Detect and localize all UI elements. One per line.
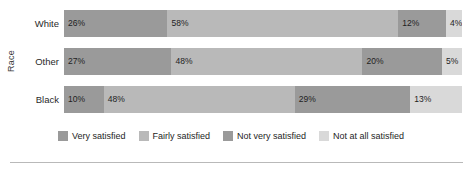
bar-segment[interactable]: 20% — [362, 48, 442, 75]
y-axis-title: Race — [0, 0, 22, 122]
bar-segment-value: 10% — [64, 95, 85, 104]
bar-segment[interactable]: 48% — [171, 48, 362, 75]
bar-segment[interactable]: 13% — [410, 86, 462, 113]
legend-swatch-icon — [319, 131, 329, 141]
bar-segment[interactable]: 29% — [295, 86, 410, 113]
bar-segment-value: 26% — [64, 19, 85, 28]
bottom-divider — [10, 162, 463, 163]
bar-track: 26%58%12%4% — [64, 10, 462, 37]
bar-row: Other27%48%20%5% — [22, 48, 462, 75]
legend-item[interactable]: Fairly satisfied — [139, 131, 211, 141]
bar-segment-value: 20% — [362, 57, 383, 66]
bar-segment[interactable]: 27% — [64, 48, 171, 75]
chart-legend: Very satisfiedFairly satisfiedNot very s… — [58, 128, 466, 144]
bar-segment-value: 48% — [171, 57, 192, 66]
legend-swatch-icon — [139, 131, 149, 141]
y-axis-title-label: Race — [6, 50, 16, 72]
legend-item[interactable]: Not very satisfied — [223, 131, 306, 141]
bar-segment-value: 12% — [398, 19, 419, 28]
bar-segment[interactable]: 4% — [446, 10, 462, 37]
bar-segment[interactable]: 10% — [64, 86, 104, 113]
legend-swatch-icon — [58, 131, 68, 141]
bar-segment-value: 13% — [410, 95, 431, 104]
plot-area: White26%58%12%4%Other27%48%20%5%Black10%… — [22, 10, 462, 122]
bar-segment-value: 29% — [295, 95, 316, 104]
bar-segment[interactable]: 48% — [104, 86, 295, 113]
bar-segment-value: 4% — [446, 19, 462, 28]
legend-label: Not at all satisfied — [333, 132, 404, 141]
legend-item[interactable]: Not at all satisfied — [319, 131, 404, 141]
legend-item[interactable]: Very satisfied — [58, 131, 126, 141]
bar-segment[interactable]: 26% — [64, 10, 167, 37]
bar-segment[interactable]: 58% — [167, 10, 398, 37]
bar-track: 27%48%20%5% — [64, 48, 462, 75]
bar-segment[interactable]: 12% — [398, 10, 446, 37]
legend-label: Not very satisfied — [237, 132, 306, 141]
category-label: White — [22, 18, 64, 29]
legend-label: Fairly satisfied — [153, 132, 211, 141]
bar-row: White26%58%12%4% — [22, 10, 462, 37]
category-label: Black — [22, 94, 64, 105]
bar-track: 10%48%29%13% — [64, 86, 462, 113]
bar-segment-value: 5% — [442, 57, 458, 66]
category-label: Other — [22, 56, 64, 67]
bar-segment[interactable]: 5% — [442, 48, 462, 75]
bar-segment-value: 58% — [167, 19, 188, 28]
bar-row: Black10%48%29%13% — [22, 86, 462, 113]
bar-segment-value: 48% — [104, 95, 125, 104]
bar-segment-value: 27% — [64, 57, 85, 66]
stacked-bar-chart: Race White26%58%12%4%Other27%48%20%5%Bla… — [0, 0, 473, 169]
legend-swatch-icon — [223, 131, 233, 141]
legend-label: Very satisfied — [72, 132, 126, 141]
